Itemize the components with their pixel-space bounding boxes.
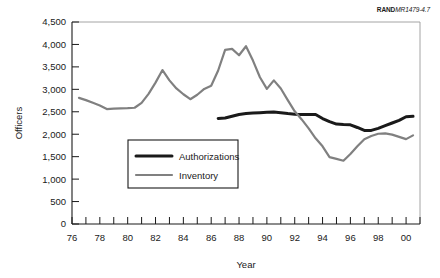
series-line-authorizations — [218, 112, 413, 130]
rand-brand-label: RAND — [377, 6, 395, 13]
y-axis-tick-labels: 05001,0001,5002,0002,5003,0003,5004,0004… — [42, 16, 66, 229]
y-axis-ticks — [72, 22, 79, 224]
rand-figure-credit: RANDMR1479-4.7 — [377, 7, 430, 14]
y-tick-label: 4,500 — [42, 16, 66, 27]
x-tick-label: 98 — [373, 232, 384, 243]
x-tick-label: 80 — [122, 232, 133, 243]
x-tick-label: 90 — [262, 232, 273, 243]
rand-line-chart-figure: RANDMR1479-4.7 05001,0001,5002,0002,5003… — [0, 0, 440, 278]
x-tick-label: 88 — [234, 232, 245, 243]
plot-frame — [72, 22, 420, 224]
y-tick-label: 3,500 — [42, 61, 66, 72]
legend-label-authorizations: Authorizations — [179, 151, 239, 162]
y-tick-label: 1,000 — [42, 174, 66, 185]
y-tick-label: 3,000 — [42, 84, 66, 95]
x-tick-label: 84 — [178, 232, 189, 243]
x-tick-label: 76 — [67, 232, 78, 243]
y-tick-label: 2,000 — [42, 129, 66, 140]
x-tick-label: 94 — [317, 232, 328, 243]
y-tick-label: 500 — [50, 196, 66, 207]
x-tick-label: 96 — [345, 232, 356, 243]
legend-box — [128, 140, 238, 188]
y-tick-label: 0 — [61, 218, 66, 229]
x-tick-label: 00 — [401, 232, 412, 243]
x-axis-title: Year — [236, 259, 255, 270]
x-tick-label: 92 — [289, 232, 300, 243]
x-axis-ticks — [72, 217, 420, 224]
y-tick-label: 1,500 — [42, 151, 66, 162]
x-tick-label: 78 — [95, 232, 106, 243]
rand-figure-code: MR1479-4.7 — [395, 6, 430, 13]
x-tick-label: 82 — [150, 232, 161, 243]
y-tick-label: 2,500 — [42, 106, 66, 117]
x-tick-label: 86 — [206, 232, 217, 243]
chart-legend: Authorizations Inventory — [128, 140, 239, 188]
officers-authorizations-inventory-chart: 05001,0001,5002,0002,5003,0003,5004,0004… — [0, 0, 440, 278]
y-tick-label: 4,000 — [42, 39, 66, 50]
axes — [72, 22, 420, 224]
legend-label-inventory: Inventory — [179, 170, 218, 181]
x-axis-tick-labels: 76788082848688909294969800 — [67, 232, 412, 243]
y-axis-title: Officers — [13, 106, 24, 139]
